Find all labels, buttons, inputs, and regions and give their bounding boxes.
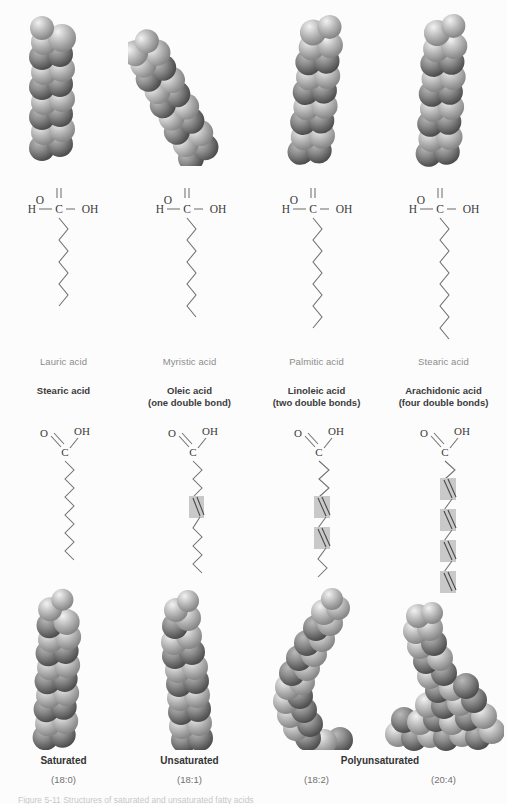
sublabel-arachidonic-acid: (four double bonds) (380, 397, 507, 409)
bottom-label-unsaturated: Unsaturated (126, 755, 253, 766)
atom-label-OH: OH (463, 203, 480, 215)
label-oleic-acid: Oleic acid (167, 385, 212, 396)
atom-label-C: C (61, 446, 68, 458)
notation-20-4: (20:4) (380, 774, 507, 785)
skeletal-formula-lauric-acid: O C H OH (18, 166, 128, 316)
atom-label-O: O (420, 427, 428, 439)
atom-label-OH: OH (336, 203, 353, 215)
space-filling-model-unsaturated (142, 588, 242, 750)
atom-label-O: O (40, 427, 48, 439)
notation-18-1: (18:1) (126, 774, 253, 785)
atom-label-C: C (55, 203, 63, 215)
atom-label-OH: OH (454, 425, 470, 437)
bottom-label-saturated: Saturated (0, 755, 127, 766)
space-filling-model-saturated (20, 588, 116, 750)
space-filling-model-myristic-acid (128, 14, 238, 166)
notation-18-0: (18:0) (0, 774, 127, 785)
atom-label-C: C (189, 446, 196, 458)
atom-label-H: H (282, 203, 290, 215)
label-stearic-acid-row2: Stearic acid (37, 385, 90, 396)
skeletal-formula-palmitic-acid: O C H OH (272, 166, 382, 344)
skeletal-formula-stearic-acid-top: O C H OH (399, 166, 507, 356)
atom-label-C: C (441, 446, 448, 458)
skeletal-formula-oleic-acid: O OH C (148, 420, 258, 578)
skeletal-formula-stearic-acid-row2: O OH C (20, 420, 130, 570)
atom-label-O: O (164, 194, 172, 206)
skeletal-formula-linoleic-acid: O OH C (274, 420, 384, 588)
space-filling-model-lauric-acid (14, 12, 114, 162)
atom-label-O: O (290, 194, 298, 206)
sublabel-oleic-acid: (one double bond) (126, 397, 253, 409)
label-linoleic-acid: Linoleic acid (288, 385, 346, 396)
space-filling-model-stearic-acid-top (406, 12, 502, 167)
figure-caption: Figure 5-11 Structures of saturated and … (18, 795, 498, 804)
label-arachidonic-acid: Arachidonic acid (405, 385, 482, 396)
notation-18-2: (18:2) (253, 774, 380, 785)
skeletal-formula-arachidonic-acid: O OH C (400, 420, 507, 595)
atom-label-C: C (315, 446, 322, 458)
label-palmitic-acid: Palmitic acid (253, 356, 380, 367)
atom-label-O: O (417, 194, 425, 206)
atom-label-H: H (28, 203, 36, 215)
space-filling-model-palmitic-acid (280, 12, 376, 167)
atom-label-C: C (309, 203, 317, 215)
atom-label-O: O (168, 427, 176, 439)
atom-label-O: O (36, 194, 44, 206)
skeletal-formula-myristic-acid: O C H OH (146, 166, 256, 328)
atom-label-C: C (436, 203, 444, 215)
space-filling-model-polyunsaturated-20-4 (382, 598, 504, 753)
bottom-label-polyunsaturated: Polyunsaturated (253, 755, 507, 766)
atom-label-OH: OH (74, 425, 90, 437)
atom-label-O: O (294, 427, 302, 439)
atom-label-C: C (183, 203, 191, 215)
label-myristic-acid: Myristic acid (126, 356, 253, 367)
atom-label-OH: OH (82, 203, 99, 215)
figure-canvas: O C H OH O C H OH O C (0, 0, 507, 804)
space-filling-model-polyunsaturated-18-2 (262, 588, 372, 750)
atom-label-OH: OH (202, 425, 218, 437)
atom-label-H: H (409, 203, 417, 215)
label-stearic-acid-top: Stearic acid (380, 356, 507, 367)
atom-label-OH: OH (328, 425, 344, 437)
atom-label-H: H (156, 203, 164, 215)
sublabel-linoleic-acid: (two double bonds) (253, 397, 380, 409)
atom-label-OH: OH (210, 203, 227, 215)
label-lauric-acid: Lauric acid (0, 356, 127, 367)
